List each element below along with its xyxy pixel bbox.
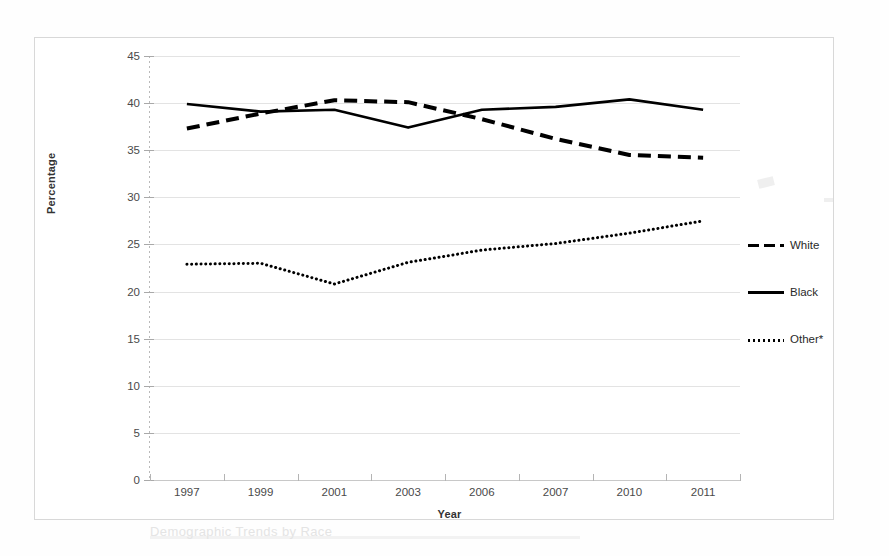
- legend-item-white[interactable]: White: [748, 236, 868, 254]
- y-axis-tick-label: 20: [96, 286, 140, 298]
- y-axis-title: Percentage: [45, 153, 57, 214]
- legend-line-sample: [748, 339, 784, 342]
- x-tick-mark: [519, 474, 520, 481]
- y-tick-mark: [144, 480, 154, 481]
- plot-area: [150, 56, 740, 480]
- legend-item-black[interactable]: Black: [748, 283, 868, 301]
- x-axis-tick-label: 2011: [691, 486, 716, 498]
- x-tick-mark: [150, 474, 151, 481]
- y-axis-tick-label: 30: [96, 191, 140, 203]
- y-axis-tick-label: 40: [96, 97, 140, 109]
- line-chart: 051015202530354045 199719992001200320062…: [0, 0, 889, 556]
- x-tick-mark: [593, 474, 594, 481]
- legend-label: Black: [790, 286, 818, 298]
- y-axis-tick-label: 25: [96, 238, 140, 250]
- y-tick-mark: [144, 244, 154, 245]
- dotted-line-swatch: [748, 332, 784, 346]
- y-tick-mark: [144, 56, 154, 57]
- legend-item-other[interactable]: Other*: [748, 330, 868, 348]
- legend-label: White: [790, 239, 819, 251]
- y-tick-mark: [144, 292, 154, 293]
- y-tick-mark: [144, 103, 154, 104]
- y-axis-line: [149, 56, 150, 480]
- y-tick-mark: [144, 433, 154, 434]
- x-tick-mark: [666, 474, 667, 481]
- y-axis-tick-labels: 051015202530354045: [92, 0, 140, 556]
- series-line-white: [187, 100, 703, 157]
- y-axis-tick-label: 45: [96, 50, 140, 62]
- x-tick-mark: [445, 474, 446, 481]
- x-axis-tick-label: 1997: [174, 486, 200, 498]
- dashed-line-swatch: [748, 238, 784, 252]
- scanned-page: 051015202530354045 199719992001200320062…: [0, 0, 889, 556]
- x-tick-mark: [371, 474, 372, 481]
- y-tick-mark: [144, 386, 154, 387]
- solid-line-swatch: [748, 285, 784, 299]
- y-axis-tick-label: 10: [96, 380, 140, 392]
- x-tick-mark: [298, 474, 299, 481]
- y-axis-tick-label: 15: [96, 333, 140, 345]
- x-axis-tick-label: 1999: [248, 486, 274, 498]
- legend-label: Other*: [790, 333, 823, 345]
- series-line-black: [187, 99, 703, 127]
- y-axis-tick-label: 35: [96, 144, 140, 156]
- legend-line-sample: [748, 291, 784, 294]
- y-tick-mark: [144, 197, 154, 198]
- series-line-other: [187, 221, 703, 284]
- x-axis-tick-label: 2010: [617, 486, 643, 498]
- y-axis-tick-label: 5: [96, 427, 140, 439]
- x-tick-mark: [224, 474, 225, 481]
- x-axis-tick-label: 2001: [322, 486, 348, 498]
- legend-line-sample: [748, 244, 784, 247]
- x-axis-tick-label: 2006: [469, 486, 495, 498]
- x-axis-title: Year: [0, 508, 889, 520]
- y-tick-mark: [144, 339, 154, 340]
- y-tick-mark: [144, 150, 154, 151]
- y-axis-tick-label: 0: [96, 474, 140, 486]
- x-axis-tick-label: 2003: [395, 486, 421, 498]
- x-axis-tick-label: 2007: [543, 486, 569, 498]
- x-tick-mark: [740, 474, 741, 481]
- series-layer: [150, 56, 740, 480]
- chart-legend: WhiteBlackOther*: [748, 236, 868, 377]
- scan-artifact: [824, 198, 833, 202]
- caption-fragment: Demographic Trends by Race: [150, 524, 332, 539]
